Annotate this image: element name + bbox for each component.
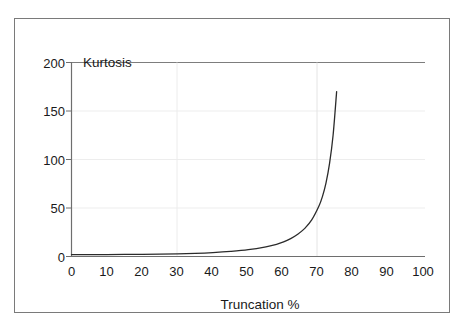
y-axis-title: Kurtosis — [83, 55, 132, 70]
y-tick-label-50: 50 — [25, 202, 65, 215]
x-tick-label-60: 60 — [274, 265, 288, 278]
figure-root: 200 150 100 50 0 0 10 20 30 40 50 60 70 … — [0, 0, 468, 331]
x-tick-label-20: 20 — [134, 265, 148, 278]
y-tick-label-200: 200 — [25, 56, 65, 69]
x-tick-label-0: 0 — [68, 265, 75, 278]
x-tick-label-70: 70 — [309, 265, 323, 278]
y-tick-label-0: 0 — [25, 250, 65, 263]
x-tick-label-50: 50 — [239, 265, 253, 278]
x-axis-title: Truncation % — [220, 297, 299, 312]
x-tick-label-30: 30 — [169, 265, 183, 278]
kurtosis-curve — [72, 92, 337, 255]
y-tick-label-100: 100 — [25, 153, 65, 166]
x-tick-label-80: 80 — [344, 265, 358, 278]
gridlines-horizontal — [72, 63, 425, 209]
x-tick-label-40: 40 — [204, 265, 218, 278]
x-tick-label-100: 100 — [412, 265, 434, 278]
figure-border: 200 150 100 50 0 0 10 20 30 40 50 60 70 … — [14, 18, 450, 313]
x-tick-label-10: 10 — [99, 265, 113, 278]
y-tick-label-150: 150 — [25, 105, 65, 118]
x-tick-label-90: 90 — [379, 265, 393, 278]
